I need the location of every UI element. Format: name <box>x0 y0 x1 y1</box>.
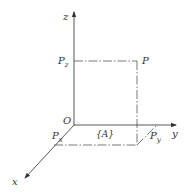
pz-label: Pz <box>57 55 69 69</box>
z-axis-label: z <box>62 11 69 22</box>
point-p-label: P <box>141 55 149 66</box>
py-label: Py <box>149 130 162 144</box>
y-axis-label: y <box>171 128 178 139</box>
coordinate-diagram: z y x O {A} P Pz Px Py <box>0 0 191 195</box>
x-axis <box>25 125 74 178</box>
x-axis-label: x <box>12 176 18 187</box>
px-label: Px <box>51 130 63 144</box>
origin-label: O <box>63 115 71 126</box>
frame-label: {A} <box>96 129 114 139</box>
